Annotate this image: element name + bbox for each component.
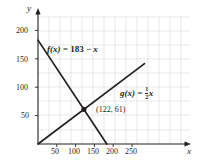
y-tick-label-200: 200 (16, 26, 28, 35)
plot-canvas (0, 0, 200, 165)
series-label-f-minus: − (86, 44, 91, 54)
y-tick-label-50: 50 (21, 111, 29, 120)
series-label-f-close: ) (58, 44, 61, 54)
x-tick-label-200: 200 (106, 147, 118, 156)
series-label-f-intercept: 183 (70, 44, 84, 54)
function-graph-figure: y x 50 100 150 200 50 100 150 200 250 f(… (0, 0, 200, 165)
series-line-f (38, 40, 107, 144)
x-tick-label-50: 50 (51, 147, 59, 156)
y-axis-label: y (27, 3, 31, 13)
series-label-g-term: x (149, 88, 154, 98)
series-label-g: g(x) = 1 2 x (120, 86, 153, 100)
y-tick-label-150: 150 (16, 55, 28, 64)
series-label-g-close: ) (132, 88, 135, 98)
series-label-f: f(x) = 183 − x (47, 44, 98, 54)
intersection-marker (81, 107, 86, 112)
y-tick-label-100: 100 (16, 83, 28, 92)
series-label-f-equals: = (63, 44, 68, 54)
x-axis-label: x (187, 146, 191, 156)
series-line-g (38, 64, 145, 144)
grid-vertical (49, 17, 181, 144)
series-label-g-equals: = (137, 88, 142, 98)
x-tick-label-250: 250 (125, 147, 137, 156)
series-label-f-term: x (93, 44, 98, 54)
x-tick-label-100: 100 (68, 147, 80, 156)
intersection-point-label: (122, 61) (96, 105, 125, 114)
y-axis-arrow (35, 8, 40, 15)
x-tick-label-150: 150 (87, 147, 99, 156)
